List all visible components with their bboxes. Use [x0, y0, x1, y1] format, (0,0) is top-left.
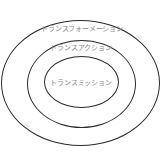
inner-layer-label: トランスミッション [50, 77, 111, 87]
outer-layer-label: トランスフォーメーション [41, 23, 123, 33]
middle-layer-label: トランスアクション [50, 42, 111, 52]
concentric-diagram: トランスフォーメーション トランスアクション トランスミッション [0, 0, 161, 155]
